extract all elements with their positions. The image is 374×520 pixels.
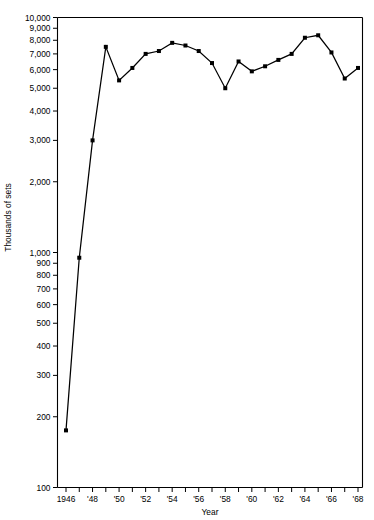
line-chart: 1002003004005006007008009001,0002,0003,0… [0, 0, 374, 520]
y-tick-label: 4,000 [30, 106, 51, 116]
y-tick-label: 800 [37, 270, 51, 280]
data-point-marker [250, 69, 254, 73]
data-point-marker [316, 33, 320, 37]
data-point-marker [130, 66, 134, 70]
x-axis-title: Year [202, 507, 219, 517]
y-tick-label: 9,000 [30, 23, 51, 33]
data-point-marker [64, 428, 68, 432]
data-series-line [66, 35, 358, 430]
x-tick-label: '58 [220, 494, 231, 504]
y-tick-label: 1,000 [30, 248, 51, 258]
x-tick-label: '48 [87, 494, 98, 504]
y-tick-label: 10,000 [25, 13, 51, 23]
y-tick-label: 5,000 [30, 83, 51, 93]
x-tick-label: '62 [273, 494, 284, 504]
y-tick-label: 700 [37, 284, 51, 294]
y-tick-label: 300 [37, 370, 51, 380]
x-tick-label: '54 [167, 494, 178, 504]
y-tick-label: 7,000 [30, 49, 51, 59]
y-tick-label: 100 [37, 483, 51, 493]
x-tick-label: '52 [140, 494, 151, 504]
x-tick-label: '50 [114, 494, 125, 504]
data-point-marker [263, 64, 267, 68]
data-point-marker [170, 41, 174, 45]
y-tick-label: 6,000 [30, 65, 51, 75]
y-tick-label: 3,000 [30, 135, 51, 145]
data-point-marker [144, 52, 148, 56]
data-point-marker [290, 52, 294, 56]
data-point-marker [197, 49, 201, 53]
data-point-marker [356, 66, 360, 70]
data-point-marker [343, 77, 347, 81]
y-tick-label: 900 [37, 258, 51, 268]
data-point-marker [183, 44, 187, 48]
x-tick-label: 1946 [57, 494, 76, 504]
x-tick-label: '64 [299, 494, 310, 504]
y-tick-label: 200 [37, 412, 51, 422]
y-tick-label: 8,000 [30, 35, 51, 45]
x-tick-label: '68 [353, 494, 364, 504]
data-point-marker [303, 36, 307, 40]
data-point-marker [157, 49, 161, 53]
data-point-marker [104, 45, 108, 49]
y-tick-label: 2,000 [30, 177, 51, 187]
data-point-marker [210, 61, 214, 65]
y-axis-title: Thousands of sets [3, 183, 13, 251]
data-point-marker [329, 50, 333, 54]
y-tick-label: 600 [37, 300, 51, 310]
data-point-marker [276, 58, 280, 62]
data-point-marker [237, 59, 241, 63]
x-tick-label: '56 [193, 494, 204, 504]
data-point-marker [117, 78, 121, 82]
data-point-marker [91, 138, 95, 142]
x-tick-label: '60 [246, 494, 257, 504]
data-point-marker [223, 86, 227, 90]
y-tick-label: 500 [37, 318, 51, 328]
chart-container: 1002003004005006007008009001,0002,0003,0… [0, 0, 374, 520]
data-point-marker [77, 256, 81, 260]
y-tick-label: 400 [37, 341, 51, 351]
x-tick-label: '66 [326, 494, 337, 504]
